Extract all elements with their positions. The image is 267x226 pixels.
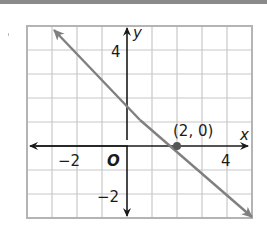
- origin-label: O: [107, 152, 120, 170]
- point-2-0: [173, 142, 181, 150]
- x-tick-neg2: −2: [58, 152, 80, 170]
- point-label: (2, 0): [173, 122, 213, 140]
- coordinate-plane: y x 4 −2 −2 4 O (2, 0): [0, 0, 267, 226]
- y-tick-4: 4: [111, 43, 121, 61]
- y-axis-label: y: [132, 24, 143, 42]
- y-tick-neg2: −2: [97, 188, 119, 206]
- x-axis-label: x: [239, 126, 249, 144]
- x-tick-4: 4: [221, 152, 231, 170]
